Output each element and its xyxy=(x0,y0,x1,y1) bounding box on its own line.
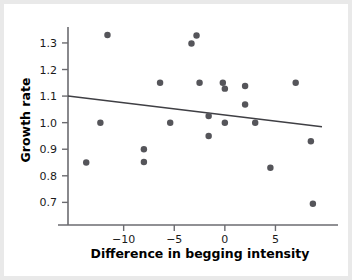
x-axis-title: Difference in begging intensity xyxy=(91,246,310,261)
y-tick-label: 0.9 xyxy=(40,143,58,156)
data-point xyxy=(220,80,226,86)
y-axis-title: Growth rate xyxy=(18,78,33,163)
data-point xyxy=(252,119,258,125)
y-tick-label: 1.2 xyxy=(40,64,58,77)
data-point xyxy=(157,80,163,86)
data-point xyxy=(97,119,103,125)
data-point xyxy=(292,80,298,86)
data-point xyxy=(196,80,202,86)
data-point xyxy=(141,159,147,165)
data-point xyxy=(242,101,248,107)
y-tick-label: 0.8 xyxy=(40,170,58,183)
data-point xyxy=(141,146,147,152)
x-tick-label: 0 xyxy=(221,233,228,246)
data-point xyxy=(222,85,228,91)
y-tick-label: 1.1 xyxy=(40,90,58,103)
plot-area-background xyxy=(68,27,322,213)
x-tick-label: −10 xyxy=(112,233,135,246)
data-point xyxy=(188,40,194,46)
data-point xyxy=(205,133,211,139)
scatter-plot: 0.70.80.91.01.11.21.3 −10−505 Difference… xyxy=(0,0,352,280)
data-point xyxy=(267,165,273,171)
data-point xyxy=(167,119,173,125)
data-point xyxy=(308,138,314,144)
y-tick-label: 0.7 xyxy=(40,196,58,209)
data-point xyxy=(104,32,110,38)
data-point xyxy=(83,159,89,165)
data-point xyxy=(242,83,248,89)
y-axis-ticks: 0.70.80.91.01.11.21.3 xyxy=(40,37,69,209)
figure-container: 0.70.80.91.01.11.21.3 −10−505 Difference… xyxy=(0,0,352,280)
data-point xyxy=(205,113,211,119)
data-point xyxy=(193,32,199,38)
x-tick-label: 5 xyxy=(272,233,279,246)
y-tick-label: 1.0 xyxy=(40,117,58,130)
data-point xyxy=(222,119,228,125)
x-tick-label: −5 xyxy=(166,233,182,246)
data-point xyxy=(310,200,316,206)
y-tick-label: 1.3 xyxy=(40,37,58,50)
x-axis-ticks: −10−505 xyxy=(112,225,279,246)
